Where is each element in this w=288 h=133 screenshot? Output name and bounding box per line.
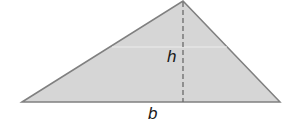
base-label: b	[148, 104, 157, 124]
triangle-diagram	[0, 0, 288, 133]
height-label: h	[167, 47, 176, 67]
triangle	[22, 1, 280, 102]
